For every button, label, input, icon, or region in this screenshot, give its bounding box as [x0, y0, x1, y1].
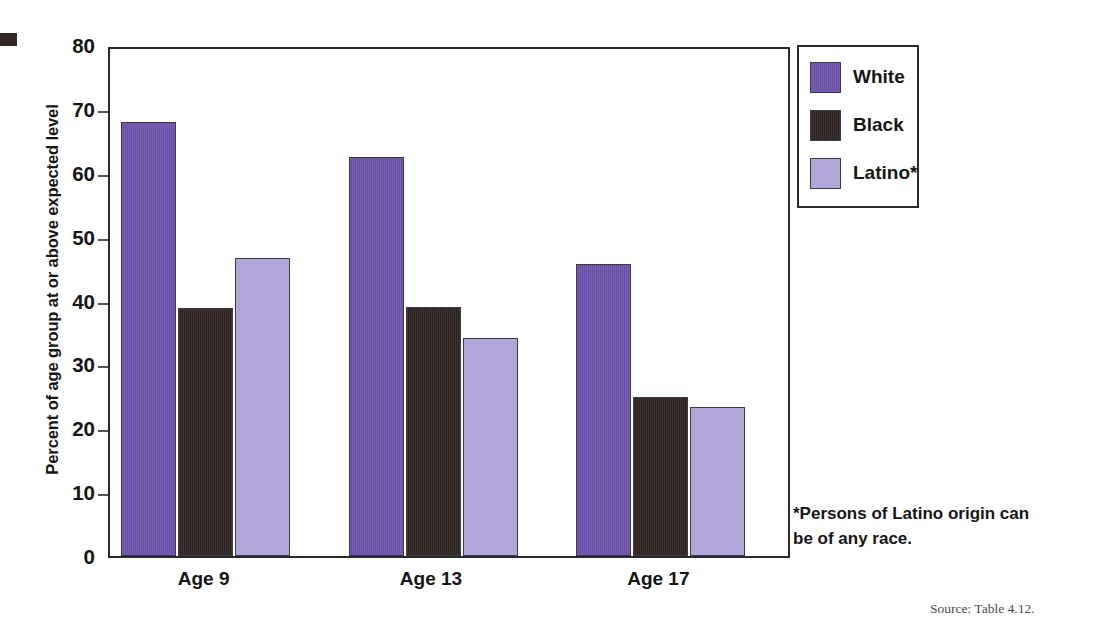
y-axis-tick-label: 20	[51, 419, 95, 440]
bar-black-age-17[interactable]	[633, 397, 688, 556]
legend-item-latino[interactable]: Latino*	[810, 157, 917, 189]
x-axis-label-age-13: Age 13	[321, 568, 541, 590]
bar-latino-age-13[interactable]	[463, 338, 518, 556]
y-axis-tick-label: 50	[51, 228, 95, 249]
bar-chart: Percent of age group at or above expecte…	[0, 0, 1097, 642]
y-axis-tick-label: 0	[51, 547, 95, 568]
bar-latino-age-9[interactable]	[235, 258, 290, 556]
legend-swatch-icon	[810, 62, 841, 93]
source-note: Source: Table 4.12.	[930, 601, 1035, 617]
x-axis-label-age-9: Age 9	[94, 568, 314, 590]
y-axis-tick-label: 80	[51, 36, 95, 57]
legend-label: Latino*	[853, 162, 917, 184]
bar-white-age-9[interactable]	[121, 122, 176, 556]
y-axis-tick-label: 40	[51, 292, 95, 313]
bar-white-age-13[interactable]	[349, 157, 404, 556]
legend-swatch-icon	[810, 158, 841, 189]
bar-white-age-17[interactable]	[576, 264, 631, 556]
chart-legend: WhiteBlackLatino*	[797, 45, 919, 208]
legend-item-white[interactable]: White	[810, 61, 905, 93]
legend-label: Black	[853, 114, 904, 136]
y-axis-tick-label: 60	[51, 164, 95, 185]
footnote: *Persons of Latino origin can be of any …	[793, 502, 1093, 551]
footnote-line-2: be of any race.	[793, 527, 1093, 552]
legend-label: White	[853, 66, 905, 88]
bar-black-age-13[interactable]	[406, 307, 461, 556]
plot-area	[108, 47, 790, 558]
bar-black-age-9[interactable]	[178, 308, 233, 556]
legend-item-black[interactable]: Black	[810, 109, 904, 141]
y-axis-tick-label: 30	[51, 355, 95, 376]
legend-swatch-icon	[810, 110, 841, 141]
y-axis-tick-label: 10	[51, 483, 95, 504]
x-axis-label-age-17: Age 17	[548, 568, 768, 590]
bar-latino-age-17[interactable]	[690, 407, 745, 556]
footnote-line-1: *Persons of Latino origin can	[793, 502, 1093, 527]
y-axis-tick-label: 70	[51, 100, 95, 121]
